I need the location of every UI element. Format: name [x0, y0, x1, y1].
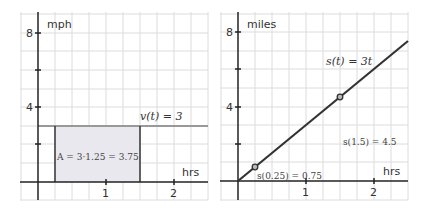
y-axis-label: mph: [47, 18, 72, 31]
x-tick-1: 1: [102, 187, 109, 200]
charts-canvas: mph 8 4 1 2 hrs v(t) = 3 A = 3·1.25 = 3.…: [0, 0, 430, 211]
left-chart: mph 8 4 1 2 hrs v(t) = 3 A = 3·1.25 = 3.…: [20, 12, 208, 200]
function-label: v(t) = 3: [140, 110, 182, 123]
point-label-0.25: s(0.25) = 0.75: [257, 171, 322, 181]
y-tick-8: 8: [26, 27, 33, 40]
function-label: s(t) = 3t: [326, 55, 373, 68]
area-label: A = 3·1.25 = 3.75: [56, 152, 139, 162]
y-tick-4: 4: [226, 101, 233, 114]
y-tick-4: 4: [26, 101, 33, 114]
y-tick-8: 8: [226, 26, 233, 39]
x-tick-2: 2: [370, 186, 377, 199]
right-chart: miles 8 4 1 2 hrs s(t) = 3t s(1.5) = 4.5…: [220, 12, 408, 200]
x-axis-label: hrs: [383, 165, 400, 178]
x-tick-2: 2: [170, 187, 177, 200]
x-axis-label: hrs: [182, 166, 199, 179]
point-s-0.25: [252, 164, 258, 170]
y-axis-label: miles: [247, 18, 277, 31]
point-label-1.5: s(1.5) = 4.5: [343, 137, 397, 147]
x-tick-1: 1: [302, 186, 309, 199]
point-s-1.5: [337, 94, 343, 100]
